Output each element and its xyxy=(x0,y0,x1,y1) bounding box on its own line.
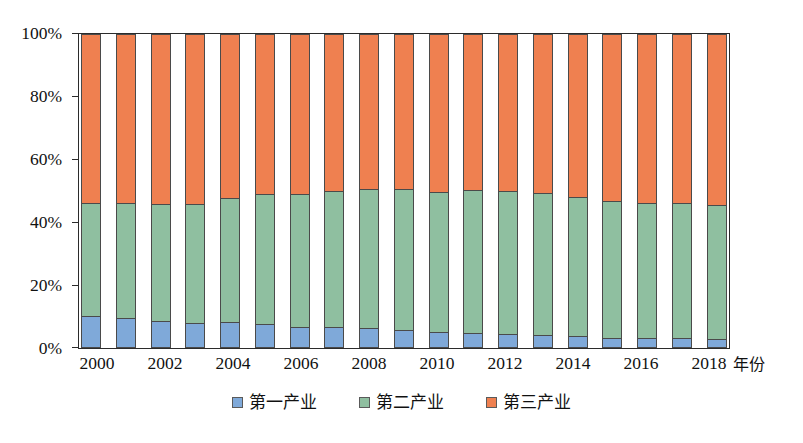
bar-segment-primary[interactable] xyxy=(394,330,414,348)
x-tick-label: 2012 xyxy=(488,355,523,373)
y-tick-label-100: 100% xyxy=(21,25,62,43)
x-tick-label: 2016 xyxy=(624,355,659,373)
bar-stack[interactable] xyxy=(672,34,692,348)
bar-stack[interactable] xyxy=(602,34,622,348)
legend-swatch-icon xyxy=(232,397,243,408)
bar-segment-secondary[interactable] xyxy=(568,197,588,336)
bar-segment-tertiary[interactable] xyxy=(255,34,275,194)
bar-segment-tertiary[interactable] xyxy=(429,34,449,192)
bar-stack[interactable] xyxy=(637,34,657,348)
bar-stack[interactable] xyxy=(324,34,344,348)
bar-segment-tertiary[interactable] xyxy=(185,34,205,204)
legend-item[interactable]: 第二产业 xyxy=(359,394,444,411)
bar-segment-tertiary[interactable] xyxy=(151,34,171,204)
legend-item[interactable]: 第三产业 xyxy=(486,394,571,411)
legend-label: 第三产业 xyxy=(503,394,571,411)
bar-segment-secondary[interactable] xyxy=(463,190,483,333)
bar-segment-secondary[interactable] xyxy=(602,201,622,337)
bar-segment-primary[interactable] xyxy=(81,316,101,348)
bar-segment-secondary[interactable] xyxy=(116,203,136,319)
bar-stack[interactable] xyxy=(151,34,171,348)
bar-segment-tertiary[interactable] xyxy=(602,34,622,201)
bar-segment-tertiary[interactable] xyxy=(672,34,692,203)
bar-stack[interactable] xyxy=(290,34,310,348)
bar-segment-tertiary[interactable] xyxy=(707,34,727,205)
bar-segment-primary[interactable] xyxy=(185,323,205,348)
bar-segment-primary[interactable] xyxy=(290,327,310,348)
bar-segment-tertiary[interactable] xyxy=(290,34,310,194)
bar-stack[interactable] xyxy=(533,34,553,348)
y-axis-labels: 100% 80% 60% 40% 20% 0% xyxy=(0,0,70,443)
bar-segment-tertiary[interactable] xyxy=(498,34,518,191)
bar-segment-secondary[interactable] xyxy=(429,192,449,332)
bar-segment-tertiary[interactable] xyxy=(568,34,588,197)
bar-segment-primary[interactable] xyxy=(324,327,344,348)
bar-segment-primary[interactable] xyxy=(533,335,553,348)
bar-segment-secondary[interactable] xyxy=(637,203,657,338)
bar-segment-tertiary[interactable] xyxy=(394,34,414,189)
bar-segment-tertiary[interactable] xyxy=(359,34,379,189)
x-axis-labels: 2000200220042006200820102012201420162018 xyxy=(78,355,728,381)
bar-segment-tertiary[interactable] xyxy=(324,34,344,191)
bar-segment-tertiary[interactable] xyxy=(116,34,136,203)
bar-segment-secondary[interactable] xyxy=(394,189,414,330)
plot-area xyxy=(78,33,730,349)
bar-stack[interactable] xyxy=(116,34,136,348)
bar-segment-primary[interactable] xyxy=(602,338,622,348)
legend-label: 第一产业 xyxy=(249,394,317,411)
bar-segment-tertiary[interactable] xyxy=(463,34,483,190)
legend-swatch-icon xyxy=(359,397,370,408)
bar-segment-secondary[interactable] xyxy=(672,203,692,338)
x-tick-label: 2006 xyxy=(284,355,319,373)
bar-segment-secondary[interactable] xyxy=(324,191,344,327)
bar-segment-primary[interactable] xyxy=(116,318,136,348)
bar-segment-secondary[interactable] xyxy=(533,193,553,335)
bar-stack[interactable] xyxy=(255,34,275,348)
x-tick-label: 2010 xyxy=(420,355,455,373)
y-tick-label-60: 60% xyxy=(30,151,62,169)
bar-segment-primary[interactable] xyxy=(568,336,588,348)
bar-stack[interactable] xyxy=(220,34,240,348)
bar-segment-secondary[interactable] xyxy=(359,189,379,328)
y-tick-label-40: 40% xyxy=(30,214,62,232)
bar-segment-secondary[interactable] xyxy=(498,191,518,334)
bar-segment-tertiary[interactable] xyxy=(637,34,657,203)
bar-segment-tertiary[interactable] xyxy=(220,34,240,198)
bar-stack[interactable] xyxy=(498,34,518,348)
bar-segment-primary[interactable] xyxy=(429,332,449,348)
bar-stack[interactable] xyxy=(568,34,588,348)
bar-stack[interactable] xyxy=(394,34,414,348)
x-axis-title: 年份 xyxy=(733,357,765,373)
bar-segment-secondary[interactable] xyxy=(290,194,310,327)
bar-stack[interactable] xyxy=(185,34,205,348)
bar-segment-primary[interactable] xyxy=(255,324,275,348)
bar-segment-secondary[interactable] xyxy=(707,205,727,338)
bar-segment-secondary[interactable] xyxy=(185,204,205,323)
bar-segment-primary[interactable] xyxy=(637,338,657,348)
bar-stack[interactable] xyxy=(429,34,449,348)
bar-segment-primary[interactable] xyxy=(498,334,518,348)
bar-stack[interactable] xyxy=(707,34,727,348)
bar-segment-secondary[interactable] xyxy=(81,203,101,316)
bar-segment-primary[interactable] xyxy=(151,321,171,348)
bar-group xyxy=(79,34,729,348)
bar-segment-tertiary[interactable] xyxy=(81,34,101,203)
bar-segment-tertiary[interactable] xyxy=(533,34,553,193)
bar-stack[interactable] xyxy=(81,34,101,348)
x-tick-label: 2002 xyxy=(148,355,183,373)
bar-stack[interactable] xyxy=(463,34,483,348)
bar-segment-primary[interactable] xyxy=(707,339,727,348)
bar-segment-primary[interactable] xyxy=(672,338,692,348)
bar-segment-primary[interactable] xyxy=(359,328,379,348)
legend-item[interactable]: 第一产业 xyxy=(232,394,317,411)
bar-segment-primary[interactable] xyxy=(463,333,483,348)
legend-swatch-icon xyxy=(486,397,497,408)
y-tick-label-80: 80% xyxy=(30,88,62,106)
bar-segment-secondary[interactable] xyxy=(255,194,275,324)
x-tick-label: 2008 xyxy=(352,355,387,373)
bar-segment-secondary[interactable] xyxy=(220,198,240,322)
legend-label: 第二产业 xyxy=(376,394,444,411)
bar-segment-primary[interactable] xyxy=(220,322,240,348)
bar-segment-secondary[interactable] xyxy=(151,204,171,321)
bar-stack[interactable] xyxy=(359,34,379,348)
